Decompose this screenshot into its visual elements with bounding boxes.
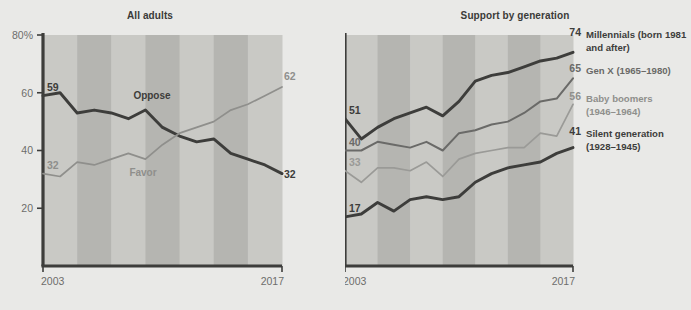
y-axis-tick-label: 60 [21,87,33,99]
background-band [443,35,476,266]
chart-panel-support-by-generation: Support by generation 80%604020200320175… [345,0,691,310]
background-band [145,35,180,266]
x-axis-tick-label: 2017 [261,275,285,287]
x-axis-tick-label: 2003 [41,275,65,287]
background-bands [345,35,574,266]
y-axis-tick-label: 20 [21,202,33,214]
series-end-value: 62 [284,70,296,82]
series-label-favor: Favor [129,167,156,178]
background-band [111,35,146,266]
background-band [77,35,112,266]
series-end-value: 56 [569,90,581,102]
legend-item-label-line2: and after) [586,42,630,53]
y-axis-tick-label: 40 [21,144,33,156]
legend-item-label-line2: (1946–1964) [586,106,640,117]
legend-item-label: Baby boomers [586,93,653,104]
background-band [410,35,443,266]
series-start-value: 33 [349,156,361,168]
chart-svg-all-adults: 80%6040202003201759323262OpposeFavor [0,0,345,310]
legend-item-label: Gen X (1965–1980) [586,65,671,76]
series-start-value: 32 [47,159,59,171]
series-start-value: 40 [349,136,361,148]
series-label-oppose: Oppose [133,90,171,101]
background-band [180,35,215,266]
background-band [43,35,78,266]
chart-panel-all-adults: All adults 80%6040202003201759323262Oppo… [0,0,345,310]
background-bands [43,35,283,266]
series-end-value: 41 [569,125,581,137]
x-axis: 20032017 [345,266,575,287]
x-axis-tick-label: 2017 [552,275,576,287]
x-axis: 20032017 [41,266,284,287]
legend-item-label: Millennials (born 1981 [586,29,687,40]
x-axis-tick-label: 2003 [345,275,367,287]
background-band [248,35,283,266]
y-axis-tick-label: 80% [12,29,33,41]
chart-svg-support-by-generation: 80%604020200320175140331774Millennials (… [345,0,691,310]
y-axis: 80%604020 [12,29,43,214]
series-start-value: 17 [349,202,361,214]
background-band [378,35,411,266]
series-start-value: 59 [47,81,59,93]
background-band [214,35,249,266]
legend-item-label: Silent generation [586,128,664,139]
series-end-value: 65 [569,62,581,74]
series-end-value: 74 [569,26,581,38]
series-end-value: 32 [284,168,296,180]
legend-item-label-line2: (1928–1945) [586,141,640,152]
series-start-value: 51 [349,104,361,116]
